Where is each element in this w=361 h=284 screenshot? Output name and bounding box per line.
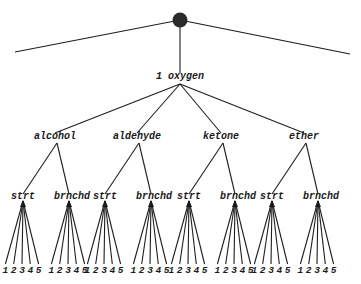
- edge-leaf: [23, 201, 39, 264]
- edge-leaf: [235, 201, 242, 264]
- leaf-label: 1: [298, 265, 304, 276]
- leaf-label: 1: [252, 265, 258, 276]
- leaf-label: 2: [177, 265, 183, 276]
- leaf-label: 3: [19, 265, 25, 276]
- leaf-label: 2: [139, 265, 145, 276]
- edge-leaf: [300, 201, 318, 264]
- leaf-label: 1: [49, 265, 55, 276]
- root-edge-left: [15, 20, 180, 52]
- edge-leaf: [105, 201, 112, 264]
- node-label-ketone: ketone: [203, 131, 239, 142]
- leaf-label: 4: [155, 265, 161, 276]
- leaf-label: 5: [202, 265, 208, 276]
- leaf-label: 5: [118, 265, 124, 276]
- edge-leaf: [272, 201, 288, 264]
- edge-leaf: [133, 201, 151, 264]
- leaf-label: 4: [193, 265, 199, 276]
- edge-leaf: [189, 201, 196, 264]
- edge-alcohol-strt: [23, 143, 57, 194]
- node-label-oxygen: 1 oxygen: [156, 71, 204, 82]
- leaf-label: 5: [36, 265, 42, 276]
- edge-leaf: [151, 201, 167, 264]
- leaf-label: 3: [147, 265, 153, 276]
- leaf-label: 4: [27, 265, 33, 276]
- node-label-brnchd: brnchd: [136, 191, 173, 202]
- leaf-label: 2: [93, 265, 99, 276]
- root-node: [173, 13, 188, 28]
- leaf-label: 4: [109, 265, 115, 276]
- edge-ketone-strt: [189, 143, 223, 194]
- leaf-label: 2: [260, 265, 266, 276]
- edge-aldehyde-strt: [105, 143, 139, 194]
- leaf-label: 3: [268, 265, 274, 276]
- node-label-ether: ether: [289, 131, 319, 142]
- edge-ketone-brnchd: [223, 143, 235, 194]
- edge-leaf: [151, 201, 158, 264]
- edge-aldehyde-brnchd: [139, 143, 151, 194]
- edge-leaf: [5, 201, 23, 264]
- leaf-label: 2: [11, 265, 17, 276]
- edge-leaf: [69, 201, 85, 264]
- edge-leaf: [217, 201, 235, 264]
- edge-leaf: [318, 201, 325, 264]
- leaf-label: 3: [185, 265, 191, 276]
- leaf-label: 2: [306, 265, 312, 276]
- edge-leaf: [69, 201, 76, 264]
- edge-leaf: [318, 201, 334, 264]
- edge-leaf: [51, 201, 69, 264]
- edge-oxygen-ketone: [180, 84, 221, 133]
- leaf-label: 3: [65, 265, 71, 276]
- edge-ether-brnchd: [306, 143, 318, 194]
- leaf-label: 1: [3, 265, 9, 276]
- leaf-label: 1: [215, 265, 221, 276]
- edge-leaf: [272, 201, 279, 264]
- leaf-label: 3: [231, 265, 237, 276]
- node-label-brnchd: brnchd: [54, 191, 91, 202]
- leaf-label: 1: [85, 265, 91, 276]
- leaf-label: 1: [131, 265, 137, 276]
- leaf-label: 4: [239, 265, 245, 276]
- leaf-label: 4: [73, 265, 79, 276]
- node-label-brnchd: brnchd: [220, 191, 257, 202]
- edge-oxygen-alcohol: [55, 84, 180, 133]
- leaf-label: 1: [169, 265, 175, 276]
- leaf-label: 4: [322, 265, 328, 276]
- leaf-label: 5: [285, 265, 291, 276]
- leaf-label: 3: [314, 265, 320, 276]
- edge-leaf: [254, 201, 272, 264]
- node-label-aldehyde: aldehyde: [113, 131, 161, 142]
- edge-leaf: [87, 201, 105, 264]
- leaf-label: 2: [57, 265, 63, 276]
- tree-diagram: 1 oxygenalcoholstrt12345brnchd12345aldeh…: [0, 0, 361, 284]
- leaf-label: 2: [223, 265, 229, 276]
- edge-alcohol-brnchd: [57, 143, 69, 194]
- leaf-label: 4: [276, 265, 282, 276]
- edge-oxygen-ether: [180, 84, 304, 133]
- edge-leaf: [235, 201, 251, 264]
- edge-oxygen-aldehyde: [137, 84, 180, 133]
- root-edge-right: [180, 20, 350, 54]
- node-label-alcohol: alcohol: [34, 131, 76, 142]
- leaf-label: 3: [101, 265, 107, 276]
- edge-leaf: [105, 201, 121, 264]
- leaf-label: 5: [331, 265, 337, 276]
- edge-leaf: [189, 201, 205, 264]
- edge-leaf: [171, 201, 189, 264]
- node-label-brnchd: brnchd: [303, 191, 340, 202]
- edge-leaf: [23, 201, 30, 264]
- edge-ether-strt: [272, 143, 306, 194]
